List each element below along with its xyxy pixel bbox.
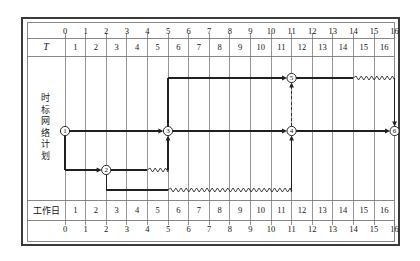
top-axis-tick-4: 4 [139,26,155,36]
vertical-title-char-1: 标 [28,105,62,117]
duration-cell-13: 13 [315,42,331,52]
bottom-axis-tick-13: 13 [325,224,341,234]
grid-lines [65,38,374,220]
workday-cell-12: 12 [294,205,310,215]
top-axis-tick-2: 2 [98,26,114,36]
vertical-title-char-2: 网 [28,116,62,128]
workday-cell-1: 1 [67,205,83,215]
event-node-label-5: 5 [284,75,300,82]
workday-cell-7: 7 [191,205,207,215]
duration-cell-15: 15 [356,42,372,52]
duration-cell-5: 5 [150,42,166,52]
duration-cell-8: 8 [212,42,228,52]
workday-cell-11: 11 [273,205,289,215]
bottom-axis-tick-12: 12 [304,224,320,234]
workday-cell-14: 14 [335,205,351,215]
duration-cell-4: 4 [129,42,145,52]
row-label-T: T [27,41,65,52]
bottom-axis-tick-14: 14 [345,224,361,234]
bottom-axis-tick-6: 6 [181,224,197,234]
event-node-label-4: 4 [284,128,300,135]
workday-cell-13: 13 [315,205,331,215]
duration-cell-2: 2 [88,42,104,52]
duration-cell-1: 1 [67,42,83,52]
top-axis-tick-6: 6 [181,26,197,36]
bottom-axis-tick-7: 7 [201,224,217,234]
duration-cell-12: 12 [294,42,310,52]
top-axis-tick-12: 12 [304,26,320,36]
dummy-activity-4-5-arrowhead [289,83,294,88]
duration-cell-6: 6 [170,42,186,52]
bottom-axis-tick-0: 0 [57,224,73,234]
workday-cell-15: 15 [356,205,372,215]
bottom-axis-tick-3: 3 [119,224,135,234]
activity-arrows [65,76,397,192]
top-axis-tick-7: 7 [201,26,217,36]
bottom-axis-tick-9: 9 [242,224,258,234]
duration-cell-3: 3 [109,42,125,52]
duration-cell-16: 16 [376,42,392,52]
activity-2-4-arrowhead [289,136,294,141]
bottom-axis-tick-15: 15 [366,224,382,234]
workday-cell-9: 9 [232,205,248,215]
top-axis-tick-8: 8 [222,26,238,36]
bottom-axis-tick-4: 4 [139,224,155,234]
workday-cell-4: 4 [129,205,145,215]
workday-cell-6: 6 [170,205,186,215]
activity-2-3-free-float-wave [147,168,168,172]
bottom-axis-tick-2: 2 [98,224,114,234]
event-node-label-1: 1 [57,128,73,135]
duration-cell-11: 11 [273,42,289,52]
row-separators [27,38,394,220]
top-axis-tick-3: 3 [119,26,135,36]
vertical-title-char-4: 计 [28,139,62,151]
event-node-label-2: 2 [98,167,114,174]
top-axis-tick-14: 14 [345,26,361,36]
workday-cell-8: 8 [212,205,228,215]
duration-cell-9: 9 [232,42,248,52]
figure-canvas: 时标网络计划 012345678910111213141516012345678… [0,0,420,261]
top-axis-tick-13: 13 [325,26,341,36]
bottom-axis-tick-1: 1 [78,224,94,234]
workday-cell-2: 2 [88,205,104,215]
activity-5-6-arrowhead [392,121,397,126]
duration-cell-7: 7 [191,42,207,52]
bottom-axis-tick-16: 16 [387,224,403,234]
workday-cell-3: 3 [109,205,125,215]
workday-cell-10: 10 [253,205,269,215]
top-axis-tick-1: 1 [78,26,94,36]
top-axis-tick-16: 16 [387,26,403,36]
top-axis-tick-10: 10 [263,26,279,36]
top-axis-tick-15: 15 [366,26,382,36]
duration-cell-14: 14 [335,42,351,52]
bottom-axis-tick-8: 8 [222,224,238,234]
top-axis-tick-9: 9 [242,26,258,36]
bottom-axis-tick-10: 10 [263,224,279,234]
event-node-label-6: 6 [387,128,403,135]
vertical-title-char-5: 划 [28,151,62,163]
activity-2-3-arrowhead [166,136,171,141]
row-label-workday: 工作日 [26,204,66,217]
workday-cell-5: 5 [150,205,166,215]
top-axis-tick-11: 11 [284,26,300,36]
bottom-axis-tick-5: 5 [160,224,176,234]
workday-cell-16: 16 [376,205,392,215]
top-axis-tick-5: 5 [160,26,176,36]
vertical-title-char-0: 时 [28,93,62,105]
event-node-label-3: 3 [160,128,176,135]
top-axis-tick-0: 0 [57,26,73,36]
duration-cell-10: 10 [253,42,269,52]
bottom-axis-tick-11: 11 [284,224,300,234]
